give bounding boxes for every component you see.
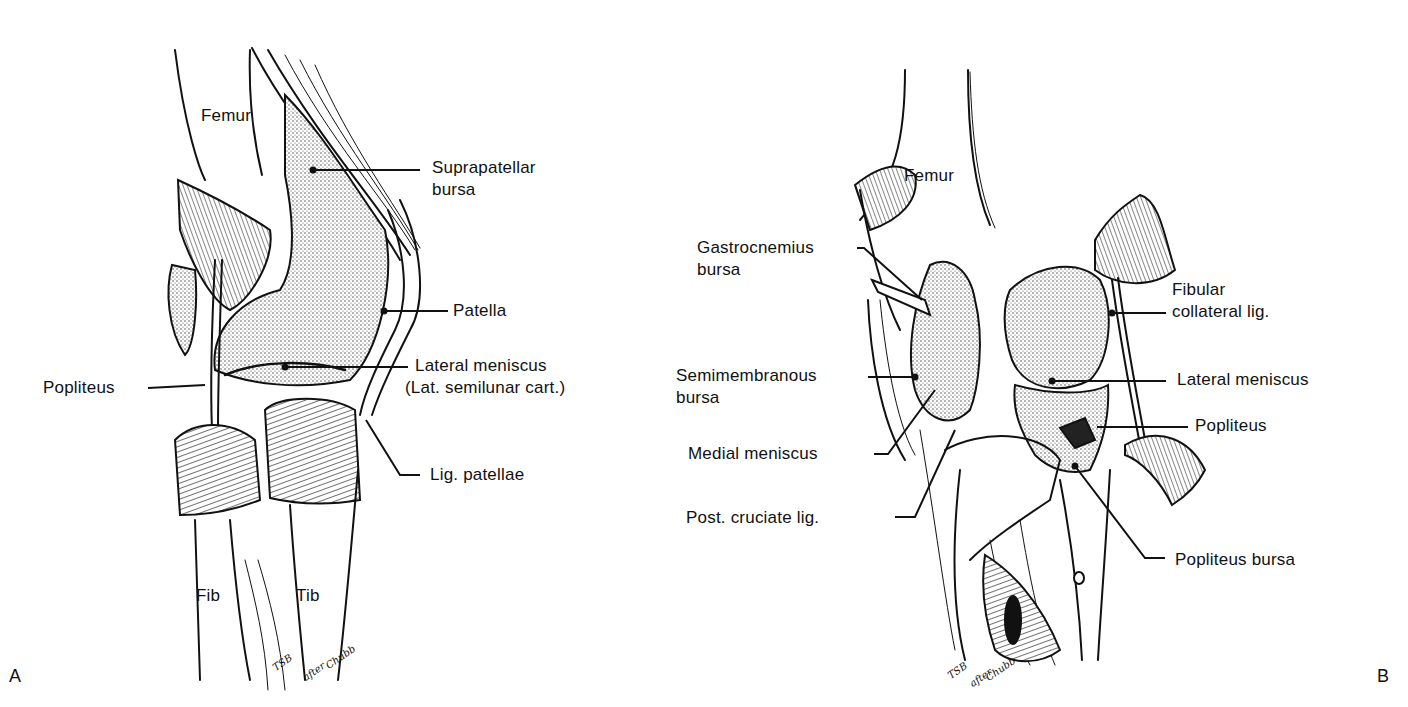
label-medial-meniscus: Medial meniscus [688,444,818,464]
label-gastrocnemius-bursa-line2: bursa [697,260,741,280]
label-gastrocnemius-bursa-line1: Gastrocnemius [697,238,814,258]
label-lateral-meniscus-b: Lateral meniscus [1177,370,1309,390]
label-fibular-collateral-line2: collateral lig. [1172,302,1270,322]
label-lateral-meniscus-a-line1: Lateral meniscus [415,356,547,376]
label-popliteus-a: Popliteus [43,378,115,398]
label-lateral-meniscus-a-line2: (Lat. semilunar cart.) [405,378,565,398]
label-semimembranous-bursa-line1: Semimembranous [676,366,817,386]
label-fibular-collateral-line1: Fibular [1172,280,1225,300]
label-post-cruciate-lig: Post. cruciate lig. [686,508,819,528]
label-popliteus-b: Popliteus [1195,416,1267,436]
label-lig-patellae: Lig. patellae [430,465,524,485]
label-fib: Fib [196,586,220,606]
label-semimembranous-bursa-line2: bursa [676,388,720,408]
label-femur-a: Femur [201,106,251,126]
label-patella: Patella [453,301,506,321]
panel-b-drawing [855,70,1205,665]
label-tib: Tib [296,586,320,606]
label-popliteus-bursa: Popliteus bursa [1175,550,1295,570]
label-suprapatellar-bursa-line2: bursa [432,180,476,200]
panel-letter-b: B [1377,666,1389,687]
label-suprapatellar-bursa-line1: Suprapatellar [432,158,536,178]
label-femur-b: Femur [904,166,954,186]
panel-letter-a: A [9,666,21,687]
